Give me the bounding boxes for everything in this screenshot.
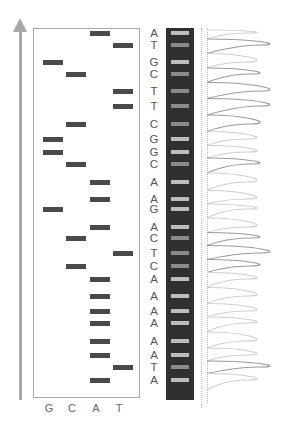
chromatogram-peak (207, 39, 270, 54)
sequence-letter: A (147, 290, 161, 302)
gel-band-a (90, 294, 110, 299)
strip-band (171, 225, 189, 229)
strip-band (171, 365, 189, 369)
strip-band (171, 31, 189, 35)
gel-band-a (90, 353, 110, 358)
gel-band-t (113, 251, 133, 256)
gel-band-t (113, 43, 133, 48)
strip-band (171, 309, 189, 313)
sequence-letter: A (147, 349, 161, 361)
gel-band-t (113, 104, 133, 109)
gel-band-a (90, 321, 110, 326)
sequence-letter: G (147, 146, 161, 158)
gel-band-g (43, 137, 63, 142)
strip-band (171, 277, 189, 281)
gel-band-a (90, 225, 110, 230)
chromatogram-peak (207, 173, 257, 191)
gel-band-a (90, 180, 110, 185)
gel-band-a (90, 378, 110, 383)
lane-label-c: C (62, 402, 82, 414)
strip-band (171, 60, 189, 64)
strip-band (171, 236, 189, 240)
chromatogram-peak (207, 273, 257, 288)
sequence-letter: C (147, 260, 161, 272)
chromatogram-peak (207, 68, 260, 83)
chromatogram-peak (207, 304, 257, 318)
strip-band (171, 264, 189, 268)
sequence-letter: T (147, 100, 161, 112)
chromatogram-peak (207, 218, 257, 233)
sequence-letter: T (147, 85, 161, 97)
gel-band-g (43, 150, 63, 155)
sequence-letter: C (147, 232, 161, 244)
chromatogram-peak (207, 361, 270, 374)
gel-band-c (66, 122, 86, 127)
strip-band (171, 162, 189, 166)
chromatogram-peak (207, 317, 257, 332)
chromatogram-peak (207, 83, 270, 99)
chromatogram-peak (207, 233, 260, 246)
gel-band-a (90, 31, 110, 36)
chromatogram-peak (207, 158, 260, 173)
gel-band-a (90, 277, 110, 282)
chromatogram-peak (207, 204, 257, 218)
chromatogram-peak (207, 332, 257, 348)
strip-band (171, 339, 189, 343)
gel-band-c (66, 72, 86, 77)
strip-band (171, 137, 189, 141)
sequence-letter: G (147, 203, 161, 215)
sequence-letter: T (147, 247, 161, 259)
chromatogram-peak (207, 30, 257, 39)
chromatogram-peak (207, 348, 257, 361)
chromatogram-peak (207, 260, 260, 273)
gel-band-t (113, 365, 133, 370)
sequence-letter: C (147, 68, 161, 80)
strip-band (171, 353, 189, 357)
sequence-letter: T (147, 39, 161, 51)
sequence-letter: A (147, 176, 161, 188)
gel-band-a (90, 197, 110, 202)
chromatogram-peak (207, 146, 257, 159)
sequence-letter: C (147, 118, 161, 130)
strip-band (171, 251, 189, 255)
gel-band-c (66, 236, 86, 241)
gel-band-a (90, 339, 110, 344)
chromatogram-peak (207, 132, 257, 146)
sequence-letter: A (147, 305, 161, 317)
sequence-letter: G (147, 56, 161, 68)
gel-band-a (90, 309, 110, 314)
strip-band (171, 180, 189, 184)
sequence-letter: A (147, 335, 161, 347)
migration-arrow-head-icon (13, 18, 27, 32)
sequence-letter: A (147, 374, 161, 386)
gel-band-g (43, 60, 63, 65)
dotted-guide-line (201, 28, 202, 408)
gel-band-c (66, 264, 86, 269)
strip-band (171, 72, 189, 76)
lane-label-a: A (86, 402, 106, 414)
chromatogram-trace (205, 20, 299, 410)
strip-band (171, 43, 189, 47)
strip-band (171, 150, 189, 154)
strip-band (171, 321, 189, 325)
chromatogram-peak (207, 191, 257, 205)
strip-band (171, 104, 189, 108)
lane-label-t: T (109, 402, 129, 414)
chromatogram-peak (207, 54, 257, 69)
sequence-letter: A (147, 273, 161, 285)
capillary-gel-strip (166, 28, 194, 400)
strip-band (171, 294, 189, 298)
gel-band-g (43, 207, 63, 212)
sequence-letter: G (147, 133, 161, 145)
chromatogram-peak (207, 374, 257, 391)
migration-arrow-shaft (19, 30, 22, 400)
strip-band (171, 207, 189, 211)
strip-band (171, 122, 189, 126)
sequence-letter: A (147, 27, 161, 39)
chromatogram-peak (207, 115, 260, 132)
chromatogram-peak (207, 99, 270, 116)
sequence-letter: A (147, 317, 161, 329)
sequence-letter: T (147, 361, 161, 373)
chromatogram-peak (207, 288, 257, 304)
chromatogram-peak (207, 246, 270, 260)
